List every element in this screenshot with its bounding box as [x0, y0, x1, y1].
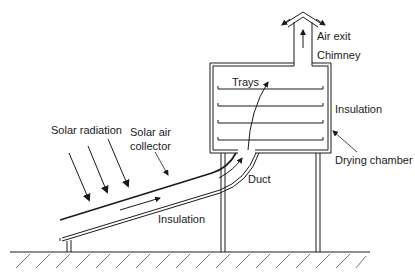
collector-label-line1: Solar air	[130, 126, 171, 138]
trays	[218, 86, 323, 140]
ground	[10, 252, 370, 268]
duct-label: Duct	[248, 173, 271, 185]
solar-air-collector	[60, 153, 259, 241]
drying-chamber-label: Drying chamber	[335, 154, 413, 166]
drying-chamber-leader	[333, 131, 357, 152]
collector-leader	[155, 152, 168, 175]
solar-radiation-arrows	[69, 139, 128, 200]
collector-insulation-label: Insulation	[158, 213, 205, 225]
collector-label-line2: collector	[130, 140, 171, 152]
chamber-insulation-label: Insulation	[335, 103, 382, 115]
collector-support	[67, 240, 71, 252]
chamber-supports	[221, 153, 320, 252]
air-exit-label: Air exit	[317, 30, 351, 42]
trays-label: Trays	[232, 76, 260, 88]
solar-radiation-label: Solar radiation	[51, 124, 122, 136]
solar-dryer-diagram: Air exit Chimney Trays Insulation Drying…	[0, 0, 415, 274]
chimney-label: Chimney	[317, 49, 361, 61]
